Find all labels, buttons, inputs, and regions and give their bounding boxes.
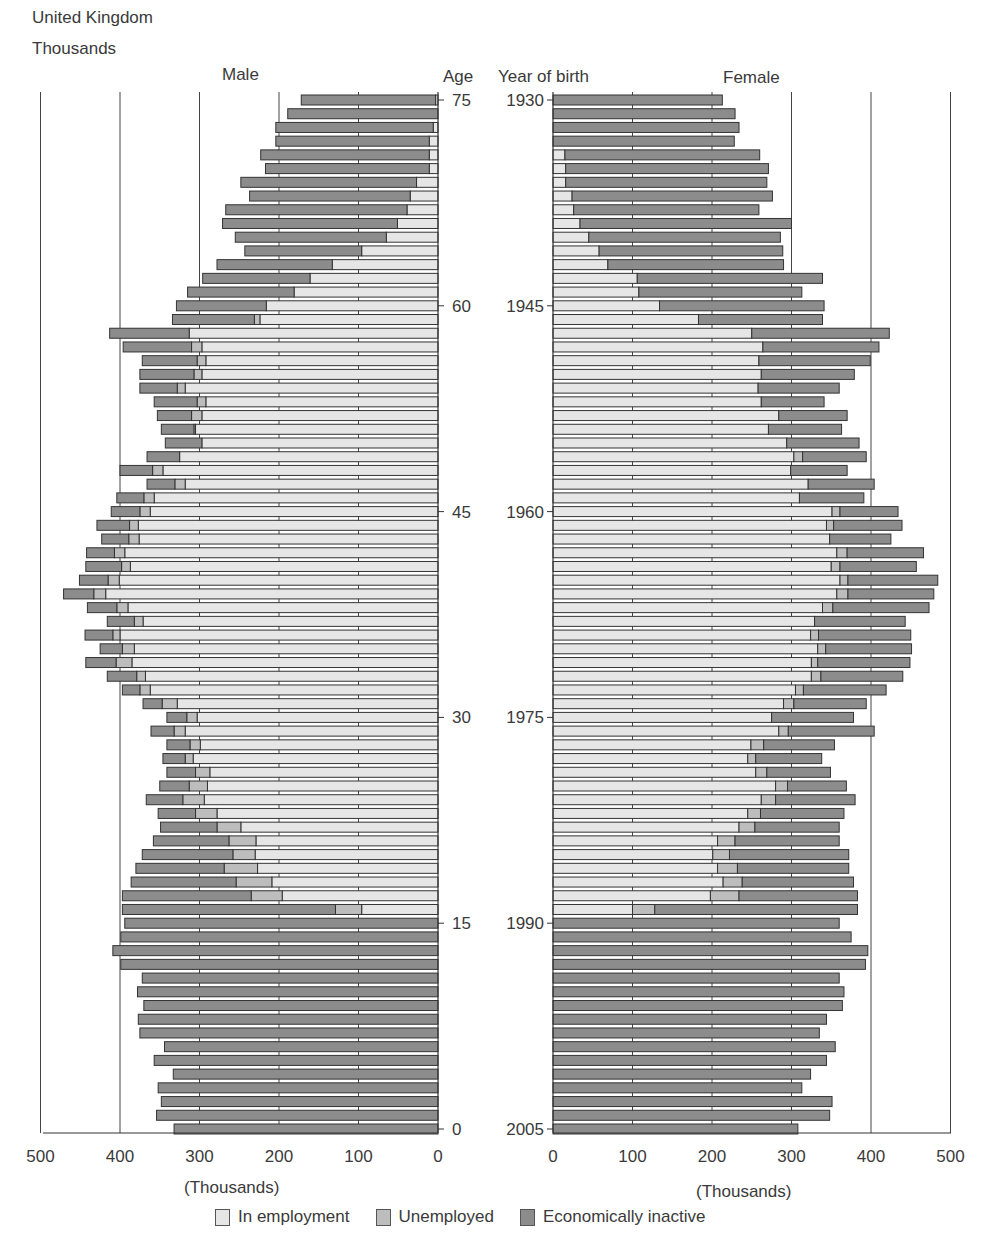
female-bar-in-employment [553, 205, 574, 215]
female-bar-unemployed [811, 658, 817, 668]
male-bar-economically-inactive [288, 109, 438, 119]
male-bar-economically-inactive [122, 685, 139, 695]
male-bar-economically-inactive [125, 918, 438, 928]
year-of-birth-axis-label: Year of birth [498, 67, 589, 87]
female-bar-unemployed [723, 877, 742, 887]
male-bar-in-employment [417, 177, 438, 187]
male-bar-unemployed [114, 548, 124, 558]
female-bar-economically-inactive [848, 575, 938, 585]
male-bar-in-employment [429, 150, 438, 160]
male-bar-economically-inactive [87, 548, 115, 558]
female-bar-economically-inactive [779, 411, 847, 421]
male-bar-economically-inactive [122, 904, 335, 914]
male-bar-economically-inactive [110, 328, 190, 338]
male-bar-in-employment [189, 328, 438, 338]
male-bar-in-employment [193, 754, 438, 764]
male-bar-in-employment [154, 493, 438, 503]
female-bar-economically-inactive [608, 260, 784, 270]
female-x-tick-label: 100 [618, 1147, 646, 1166]
female-bar-economically-inactive [599, 246, 783, 256]
female-bar-economically-inactive [787, 438, 859, 448]
male-bar-in-employment [204, 795, 438, 805]
female-bar-economically-inactive [574, 205, 759, 215]
female-bar-in-employment [553, 685, 795, 695]
female-bar-unemployed [811, 630, 819, 640]
year-tick-label: 2005 [506, 1120, 544, 1139]
female-bar-economically-inactive [729, 850, 848, 860]
male-bar-in-employment [207, 781, 438, 791]
male-bar-in-employment [407, 205, 438, 215]
male-bar-economically-inactive [147, 479, 175, 489]
female-bar-economically-inactive [742, 877, 853, 887]
female-bar-economically-inactive [660, 301, 825, 311]
female-bar-in-employment [553, 479, 808, 489]
male-bar-economically-inactive [79, 575, 108, 585]
male-bar-unemployed [117, 603, 128, 613]
male-label: Male [222, 65, 259, 85]
female-bar-economically-inactive [737, 863, 848, 873]
female-bar-in-employment [553, 218, 580, 228]
female-bar-economically-inactive [764, 740, 835, 750]
male-bar-in-employment [119, 575, 438, 585]
male-bar-economically-inactive [107, 616, 134, 626]
female-bar-economically-inactive [589, 232, 781, 242]
male-bar-unemployed [192, 342, 202, 352]
female-bar-economically-inactive [847, 548, 923, 558]
female-bar-unemployed [794, 452, 803, 462]
female-bar-in-employment [553, 630, 811, 640]
male-bar-in-employment [139, 534, 438, 544]
male-bar-unemployed [185, 754, 193, 764]
male-bar-economically-inactive [64, 589, 94, 599]
population-pyramid-chart: 5004003002001000010020030040050075193060… [0, 0, 983, 1245]
male-bar-in-employment [206, 356, 438, 366]
age-tick-label: 30 [452, 708, 471, 727]
female-bar-in-employment [553, 315, 698, 325]
female-bar-unemployed [751, 740, 764, 750]
male-bar-economically-inactive [142, 850, 233, 860]
male-bar-in-employment [128, 603, 438, 613]
female-bar-economically-inactive [761, 369, 854, 379]
female-bar-economically-inactive [799, 493, 863, 503]
male-bar-in-employment [272, 877, 438, 887]
female-bar-economically-inactive [553, 95, 722, 105]
male-bar-unemployed [94, 589, 106, 599]
female-bar-economically-inactive [840, 507, 898, 517]
legend-swatch-unemployed [376, 1209, 391, 1226]
female-bar-in-employment [553, 575, 840, 585]
female-bar-in-employment [553, 795, 761, 805]
legend-item-economically-inactive: Economically inactive [520, 1207, 706, 1227]
male-bar-in-employment [130, 561, 438, 571]
male-bar-economically-inactive [87, 603, 116, 613]
male-bar-economically-inactive [144, 1001, 438, 1011]
female-bar-in-employment [553, 740, 751, 750]
male-bar-economically-inactive [142, 973, 438, 983]
male-bar-unemployed [233, 850, 255, 860]
male-bar-unemployed [144, 493, 154, 503]
male-bar-unemployed [134, 616, 143, 626]
male-bar-economically-inactive [121, 959, 438, 969]
female-bar-economically-inactive [553, 1001, 842, 1011]
female-bar-economically-inactive [772, 712, 854, 722]
female-bar-unemployed [837, 589, 848, 599]
male-bar-unemployed [192, 411, 202, 421]
female-bar-economically-inactive [639, 287, 802, 297]
male-bar-unemployed [236, 877, 272, 887]
male-bar-unemployed [137, 671, 146, 681]
female-bar-in-employment [553, 301, 660, 311]
male-bar-unemployed [197, 397, 206, 407]
female-bar-in-employment [553, 191, 572, 201]
male-bar-in-employment [217, 808, 438, 818]
female-x-tick-label: 300 [777, 1147, 805, 1166]
female-bar-in-employment [553, 767, 756, 777]
female-bar-in-employment [553, 603, 823, 613]
male-bar-economically-inactive [121, 932, 438, 942]
male-bar-economically-inactive [203, 273, 310, 283]
male-bar-in-employment [362, 246, 438, 256]
female-bar-economically-inactive [761, 397, 824, 407]
male-bar-economically-inactive [167, 740, 190, 750]
female-bar-in-employment [553, 561, 831, 571]
year-tick-label: 1945 [506, 297, 544, 316]
year-tick-label: 1930 [506, 91, 544, 110]
male-bar-economically-inactive [161, 822, 217, 832]
male-bar-economically-inactive [123, 342, 191, 352]
